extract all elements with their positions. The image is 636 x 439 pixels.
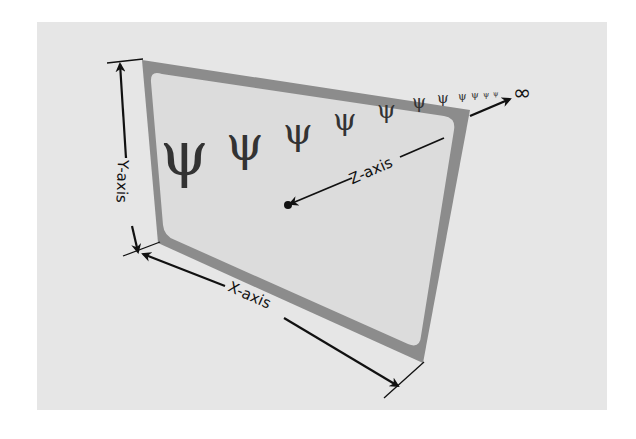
y-axis-label: Y-axis <box>113 159 133 204</box>
cactus-icon: ψ <box>283 109 313 153</box>
cactus-icon: ψ <box>437 89 449 107</box>
cactus-icon: ψ <box>412 91 426 112</box>
origin-point <box>284 201 292 209</box>
cactus-icon: ψ <box>377 96 396 124</box>
cactus-icon: ψ <box>458 90 467 103</box>
cactus-icon: ψ <box>333 102 357 137</box>
cactus-icon: ψ <box>160 117 209 190</box>
cactus-icon: ψ <box>483 90 489 99</box>
cactus-icon: ψ <box>226 115 264 171</box>
infinity-label: ∞ <box>513 80 531 105</box>
3d-axes-diagram: ψ ψ ψ ψ ψ ψ ψ ψ ψ ψ ψ Y-axis X-axis Z-ax… <box>0 0 636 439</box>
cactus-icon: ψ <box>471 89 479 100</box>
cactus-icon: ψ <box>493 90 499 98</box>
